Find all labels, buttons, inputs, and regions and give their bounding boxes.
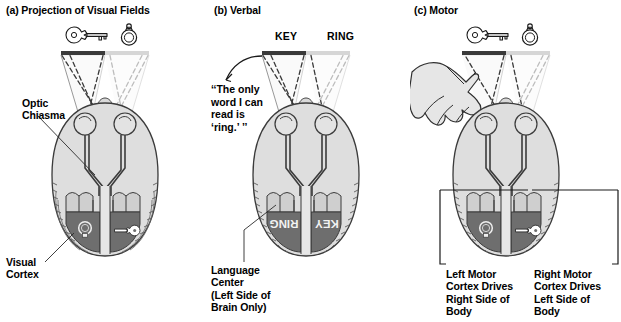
panel-c-motor: (c) Motor (410, 0, 621, 322)
brain-top-view (52, 98, 158, 256)
visual-cortex-label: Visual Cortex (6, 256, 39, 281)
optic-chiasma-label: Optic Chiasma (22, 97, 65, 122)
brain-top-view (453, 98, 559, 256)
right-visual-cortex (311, 212, 341, 252)
stimulus-word-key: KEY (275, 30, 297, 42)
stimulus-key-icon (467, 27, 508, 43)
stimulus-ring-icon (522, 24, 537, 45)
left-visual-cortex (267, 212, 301, 252)
verbal-response-quote: ‘‘The only word I can read is ‘ring.’ ’’ (211, 83, 263, 133)
stimulus-ring-icon (121, 24, 136, 45)
panel-b-verbal: (b) Verbal (210, 0, 410, 322)
brain-top-view: RING KEY (253, 98, 359, 256)
left-motor-cortex (467, 212, 501, 252)
right-cortex-word: KEY (315, 218, 339, 230)
speech-arrow (226, 56, 262, 82)
visual-cortex-leader (45, 233, 74, 262)
stimulus-key-icon (66, 27, 107, 43)
left-visual-cortex (66, 212, 100, 252)
panel-a-projection-of-visual-fields: (a) Projection of Visual Fields (0, 0, 210, 322)
right-motor-cortex-label: Right Motor Cortex Drives Left Side of B… (534, 268, 601, 318)
left-motor-cortex-label: Left Motor Cortex Drives Right Side of B… (446, 268, 513, 318)
left-cortex-word: RING (270, 218, 299, 230)
language-center-label: Language Center (Left Side of Brain Only… (211, 264, 270, 314)
stimulus-word-ring: RING (327, 30, 354, 42)
